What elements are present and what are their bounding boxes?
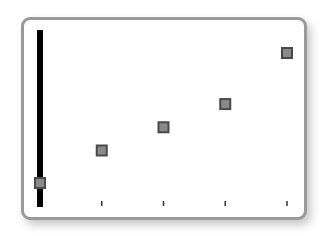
data-point-marker [159,122,169,132]
data-point-marker [282,48,292,58]
data-point-marker [97,146,107,156]
x-tick [101,201,103,206]
scatter-plot [0,0,335,236]
x-tick [286,201,288,206]
x-axis-ticks [101,201,288,206]
data-point-marker [220,99,230,109]
x-tick [163,201,165,206]
data-point-marker [35,178,45,188]
x-tick [225,201,227,206]
data-points [35,48,292,188]
